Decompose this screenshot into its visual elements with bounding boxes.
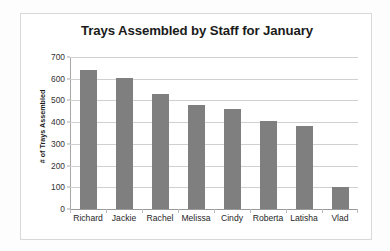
y-tick-label-300: 300: [51, 139, 65, 149]
x-axis-label-cindy: Cindy: [214, 213, 250, 223]
y-axis-title: # of Trays Assembled: [38, 67, 47, 187]
bar-slot-latisha: [286, 57, 322, 209]
bar-slot-melissa: [178, 57, 214, 209]
bar-slot-cindy: [214, 57, 250, 209]
y-tick-label-400: 400: [51, 117, 65, 127]
plot-area: 7006005004003002001000: [70, 57, 358, 209]
y-tick-label-500: 500: [51, 95, 65, 105]
y-tick-label-200: 200: [51, 161, 65, 171]
x-axis-label-roberta: Roberta: [250, 213, 286, 223]
chart-frame: Trays Assembled by Staff for January # o…: [20, 13, 372, 240]
bar-jackie[interactable]: [116, 78, 133, 209]
x-axis-label-richard: Richard: [70, 213, 106, 223]
x-axis-labels-group: RichardJackieRachelMelissaCindyRobertaLa…: [70, 213, 358, 223]
chart-title: Trays Assembled by Staff for January: [21, 23, 373, 38]
bar-vlad[interactable]: [332, 187, 349, 209]
bar-roberta[interactable]: [260, 121, 277, 209]
x-axis-label-jackie: Jackie: [106, 213, 142, 223]
bar-slot-roberta: [250, 57, 286, 209]
x-axis-label-melissa: Melissa: [178, 213, 214, 223]
bar-slot-jackie: [106, 57, 142, 209]
bar-slot-rachel: [142, 57, 178, 209]
x-axis-label-rachel: Rachel: [142, 213, 178, 223]
y-tick-label-700: 700: [51, 52, 65, 62]
chart-screenshot: Trays Assembled by Staff for January # o…: [0, 0, 390, 251]
y-tick-label-100: 100: [51, 182, 65, 192]
bar-cindy[interactable]: [224, 109, 241, 209]
bars-group: [70, 57, 358, 209]
bar-richard[interactable]: [80, 70, 97, 209]
bar-latisha[interactable]: [296, 126, 313, 209]
bar-melissa[interactable]: [188, 105, 205, 209]
x-axis-label-vlad: Vlad: [322, 213, 358, 223]
bar-rachel[interactable]: [152, 94, 169, 209]
bar-slot-richard: [70, 57, 106, 209]
y-tick-label-600: 600: [51, 74, 65, 84]
y-tick-label-0: 0: [60, 204, 65, 214]
x-axis-label-latisha: Latisha: [286, 213, 322, 223]
bar-slot-vlad: [322, 57, 358, 209]
